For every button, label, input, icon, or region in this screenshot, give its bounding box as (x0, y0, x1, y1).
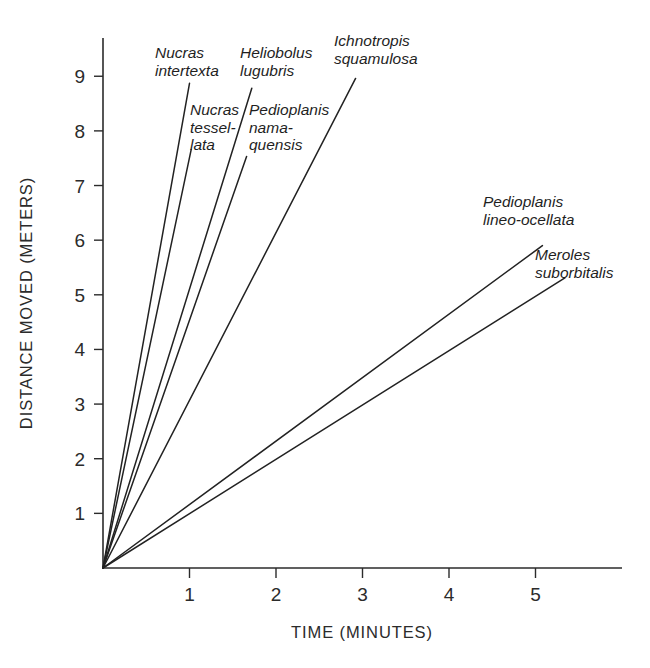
x-tick-label: 2 (271, 584, 282, 605)
series-label-nucras-intertexta[interactable]: Nucras intertexta (155, 44, 219, 79)
y-axis-title: DISTANCE MOVED (METERS) (17, 177, 35, 429)
y-tick-label: 2 (74, 449, 85, 470)
series-label-ichnotropis-squamulosa[interactable]: Ichnotropis squamulosa (334, 32, 418, 67)
chart-container: 123456789 12345 TIME (MINUTES) DISTANCE … (0, 0, 650, 668)
x-axis-ticks: 12345 (184, 568, 541, 605)
series-label-pedioplanis-namaquensis[interactable]: Pedioplanis nama- quensis (249, 101, 329, 154)
x-tick-label: 3 (357, 584, 368, 605)
series-line (103, 88, 252, 568)
y-tick-label: 7 (74, 176, 85, 197)
y-tick-label: 8 (74, 121, 85, 142)
series-line (103, 246, 542, 568)
series-label-nucras-tessellata[interactable]: Nucras tessel- lata (190, 101, 239, 154)
x-tick-label: 1 (184, 584, 195, 605)
series-line (103, 157, 247, 568)
series-line (103, 149, 191, 568)
y-tick-label: 5 (74, 285, 85, 306)
x-axis-title: TIME (MINUTES) (291, 623, 433, 641)
y-tick-label: 6 (74, 230, 85, 251)
series-label-heliobolus-lugubris[interactable]: Heliobolus lugubris (240, 44, 312, 79)
series-lines-group (103, 78, 565, 568)
series-line (103, 278, 565, 568)
y-tick-label: 1 (74, 503, 85, 524)
y-tick-label: 9 (74, 66, 85, 87)
y-tick-label: 4 (74, 339, 85, 360)
y-tick-label: 3 (74, 394, 85, 415)
series-label-meroles-suborbitalis[interactable]: Meroles suborbitalis (535, 246, 613, 281)
x-tick-label: 4 (444, 584, 455, 605)
x-tick-label: 5 (530, 584, 541, 605)
series-line (103, 83, 190, 568)
y-axis-ticks: 123456789 (74, 66, 103, 524)
series-label-pedioplanis-lineo-ocellata[interactable]: Pedioplanis lineo-ocellata (483, 193, 574, 228)
